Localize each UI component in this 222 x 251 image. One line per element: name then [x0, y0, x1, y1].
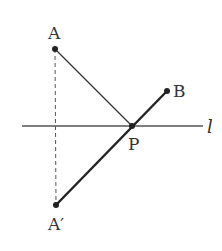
- label-line-l: l: [207, 116, 213, 137]
- point-aprime: [53, 202, 59, 208]
- point-b: [164, 88, 170, 94]
- point-a: [52, 46, 58, 52]
- reflection-diagram: A B P A′ l: [0, 0, 222, 251]
- label-p: P: [128, 134, 139, 154]
- segment-aprime-b: [56, 91, 167, 205]
- segment-a-aprime-dashed: [55, 49, 56, 205]
- segment-a-p: [55, 49, 132, 126]
- label-a: A: [47, 23, 61, 43]
- label-aprime: A′: [47, 214, 64, 234]
- point-p: [129, 123, 135, 129]
- label-b: B: [173, 81, 186, 101]
